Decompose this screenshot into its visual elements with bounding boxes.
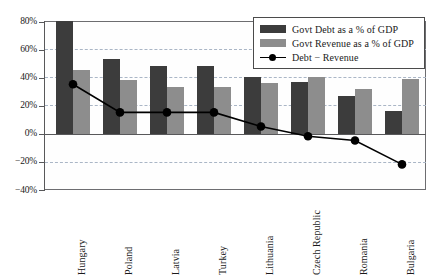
- bar-debt-romania: [338, 96, 355, 134]
- legend-label-govt-revenue: Govt Revenue as a % of GDP: [292, 38, 414, 49]
- bar-debt-lithuania: [244, 77, 261, 133]
- x-axis-label-latvia: Latvia: [171, 249, 181, 275]
- x-axis-label-czech-republic: Czech Republic: [312, 210, 322, 275]
- y-axis-label-group: 80% 60% 40% 20% 0% −20% −40%: [0, 0, 40, 277]
- y-tick-label-40: 40%: [20, 73, 37, 83]
- y-tick-label-neg40: −40%: [15, 186, 37, 196]
- legend-swatch-revenue-icon: [260, 39, 286, 47]
- y-tick-label-0: 0%: [25, 129, 37, 139]
- x-axis-label-group: Hungary Poland Latvia Turkey Lithuania C…: [45, 192, 426, 277]
- bar-debt-bulgaria: [385, 111, 402, 134]
- bar-revenue-lithuania: [261, 83, 278, 134]
- bar-revenue-hungary: [73, 70, 90, 133]
- x-axis-label-poland: Poland: [124, 247, 134, 275]
- x-axis-label-turkey: Turkey: [218, 246, 228, 275]
- y-tick-label-neg20: −20%: [15, 157, 37, 167]
- bar-revenue-bulgaria: [402, 79, 419, 134]
- legend-item-debt-minus-revenue: Debt − Revenue: [260, 50, 419, 64]
- x-axis-label-romania: Romania: [359, 238, 369, 275]
- bar-revenue-poland: [120, 80, 137, 133]
- bar-revenue-romania: [355, 89, 372, 134]
- bar-revenue-turkey: [214, 87, 231, 133]
- bar-debt-czech-republic: [291, 82, 308, 134]
- chart-legend: Govt Debt as a % of GDP Govt Revenue as …: [253, 17, 425, 69]
- y-tick-label-80: 80%: [20, 17, 37, 27]
- bar-debt-turkey: [197, 66, 214, 134]
- bar-debt-hungary: [56, 21, 73, 134]
- x-axis-label-bulgaria: Bulgaria: [406, 240, 416, 275]
- legend-line-marker-icon: [260, 53, 286, 61]
- legend-swatch-debt-icon: [260, 25, 286, 33]
- y-tick-label-60: 60%: [20, 45, 37, 55]
- y-axis-tick-neg40: [39, 190, 45, 191]
- bar-debt-poland: [103, 59, 120, 134]
- bar-revenue-czech-republic: [308, 77, 325, 133]
- bar-debt-latvia: [150, 66, 167, 134]
- legend-item-govt-revenue: Govt Revenue as a % of GDP: [260, 36, 419, 50]
- chart-container: 80% 60% 40% 20% 0% −20% −40%: [0, 0, 438, 277]
- legend-label-govt-debt: Govt Debt as a % of GDP: [292, 24, 398, 35]
- y-tick-label-20: 20%: [20, 101, 37, 111]
- bar-revenue-latvia: [167, 87, 184, 133]
- x-axis-label-hungary: Hungary: [77, 239, 87, 275]
- legend-item-govt-debt: Govt Debt as a % of GDP: [260, 22, 419, 36]
- x-axis-label-lithuania: Lithuania: [265, 236, 275, 275]
- legend-label-debt-minus-revenue: Debt − Revenue: [292, 52, 358, 63]
